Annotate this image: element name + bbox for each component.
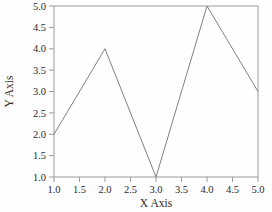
y-tick-label: 4.0 <box>33 43 46 54</box>
chart-figure: 5.0 4.5 4.0 3.5 3.0 2.5 2.0 1.5 1.0 1.0 … <box>0 0 272 212</box>
y-tick-label: 1.5 <box>33 150 46 161</box>
x-tick-label: 4.0 <box>200 184 213 195</box>
y-tick-label: 5.0 <box>33 1 46 12</box>
y-tick-label: 2.5 <box>33 108 46 119</box>
x-axis-title: X Axis <box>140 197 173 209</box>
y-tick-label: 3.5 <box>33 65 46 76</box>
y-tick-label: 1.0 <box>33 172 46 183</box>
x-tick-label: 2.5 <box>124 184 137 195</box>
y-tick-labels: 5.0 4.5 4.0 3.5 3.0 2.5 2.0 1.5 1.0 <box>33 1 46 183</box>
x-tick-label: 1.0 <box>47 184 60 195</box>
x-tick-label: 3.0 <box>149 184 162 195</box>
y-axis-title: Y Axis <box>3 75 15 107</box>
y-tick-label: 2.0 <box>33 129 46 140</box>
y-tick-label: 4.5 <box>33 22 46 33</box>
x-tick-label: 2.0 <box>98 184 111 195</box>
line-chart: 5.0 4.5 4.0 3.5 3.0 2.5 2.0 1.5 1.0 1.0 … <box>0 0 272 212</box>
x-tick-label: 5.0 <box>251 184 264 195</box>
y-tick-label: 3.0 <box>33 86 46 97</box>
x-tick-label: 3.5 <box>175 184 188 195</box>
x-tick-label: 1.5 <box>73 184 86 195</box>
x-tick-labels: 1.0 1.5 2.0 2.5 3.0 3.5 4.0 4.5 5.0 <box>47 184 264 195</box>
x-tick-label: 4.5 <box>226 184 239 195</box>
